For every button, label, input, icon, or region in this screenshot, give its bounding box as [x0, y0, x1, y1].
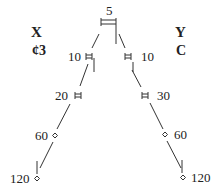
root-double-bar-icon: [101, 18, 116, 26]
left-node-label: 10: [68, 50, 81, 63]
right-node-label: 60: [174, 128, 187, 141]
right-10-double-bar-icon: [125, 53, 131, 60]
tree-diagram: X ¢3 Y C 5 10 20 60 120 10 30 60 120: [0, 0, 221, 193]
left-20-double-bar-icon: [75, 92, 81, 99]
right-header-symbol: C: [176, 44, 186, 58]
left-120-diamond-icon: [35, 176, 40, 181]
left-10-double-bar-icon: [86, 53, 92, 60]
left-header-symbol: ¢3: [32, 44, 46, 58]
right-node-label: 120: [191, 171, 211, 184]
left-header-letter: X: [31, 25, 42, 40]
left-node-label: 60: [35, 129, 48, 142]
edge-right60-right120: [167, 141, 181, 168]
edge-right10-right30: [132, 70, 141, 87]
left-60-diamond-icon: [53, 133, 58, 138]
edge-right30-right60: [150, 103, 163, 129]
right-node-label: 10: [141, 50, 154, 63]
right-120-diamond-icon: [181, 175, 186, 180]
right-header-letter: Y: [175, 25, 186, 40]
edge-left20-left60: [57, 104, 70, 129]
right-60-diamond-icon: [163, 132, 168, 137]
edge-root-right10: [119, 34, 125, 48]
root-label: 5: [106, 4, 113, 17]
right-30-double-bar-icon: [142, 92, 148, 99]
edge-left60-left120: [40, 142, 53, 168]
right-node-label: 30: [157, 89, 170, 102]
edge-root-left10: [92, 34, 99, 48]
left-node-label: 120: [10, 172, 30, 185]
edge-left10-left20: [80, 64, 88, 86]
left-node-label: 20: [55, 89, 68, 102]
